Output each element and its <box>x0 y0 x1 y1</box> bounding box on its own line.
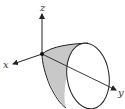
y-axis-label: y <box>117 87 124 98</box>
x-axis-label: x <box>3 59 9 70</box>
paraboloid-diagram: z x y <box>0 0 125 109</box>
z-axis-label: z <box>39 2 46 13</box>
x-axis <box>13 54 42 64</box>
origin-point <box>40 52 44 56</box>
